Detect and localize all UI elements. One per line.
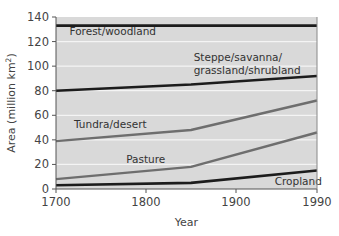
y-axis-ticks: 020406080100120140 (27, 10, 56, 196)
x-axis-title: Year (174, 216, 199, 229)
y-tick-label: 100 (27, 59, 49, 73)
x-tick-label: 1990 (302, 195, 331, 209)
series-label: Pasture (126, 153, 165, 165)
x-tick-label: 1800 (131, 195, 160, 209)
y-tick-label: 140 (27, 10, 49, 24)
y-tick-label: 40 (34, 133, 49, 147)
x-tick-label: 1900 (221, 195, 250, 209)
y-tick-label: 120 (27, 35, 49, 49)
series-label: Tundra/desert (73, 118, 147, 130)
y-tick-label: 60 (34, 108, 49, 122)
plot-area (56, 17, 317, 189)
x-tick-label: 1700 (41, 195, 70, 209)
series-label: Cropland (275, 175, 322, 187)
x-axis-ticks: 1700180019001990 (41, 189, 331, 209)
y-axis-title: Area (million km2) (4, 53, 18, 152)
land-use-area-chart: Forest/woodlandSteppe/savanna/grassland/… (0, 0, 339, 236)
y-tick-label: 20 (34, 157, 49, 171)
y-tick-label: 80 (34, 84, 49, 98)
y-tick-label: 0 (42, 182, 49, 196)
series-label: Forest/woodland (70, 25, 157, 37)
